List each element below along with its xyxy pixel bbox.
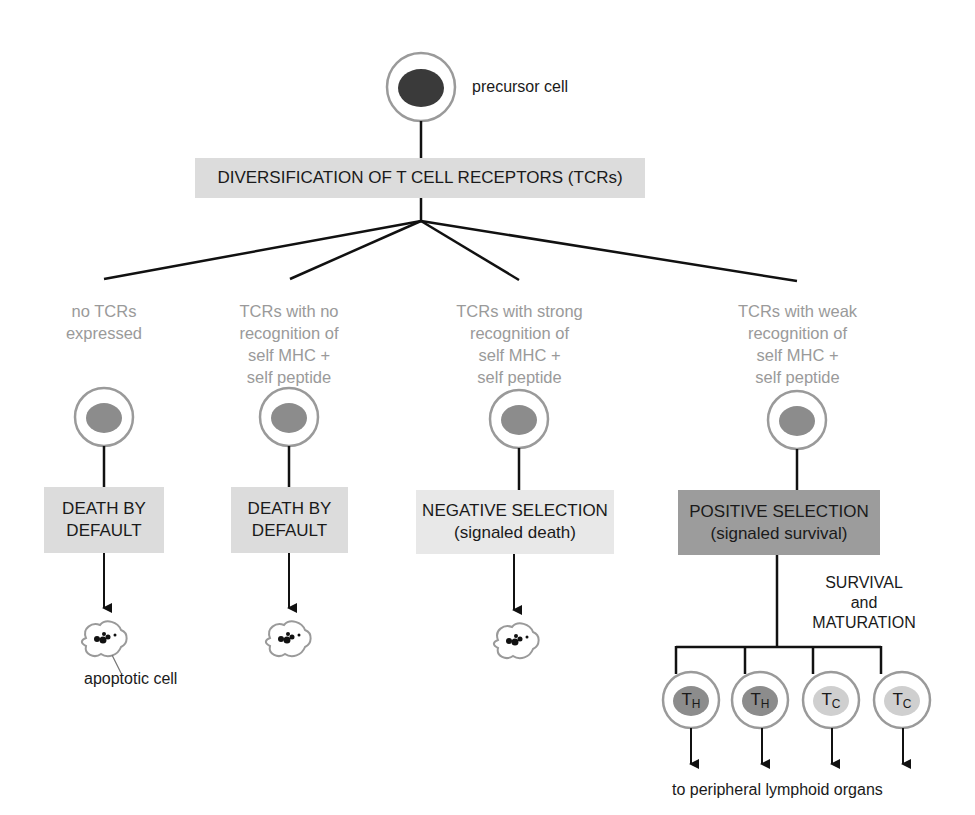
negative-selection-box: NEGATIVE SELECTION (signaled death) [416,490,614,554]
death-by-default-box: DEATH BY DEFAULT [231,487,348,553]
branch-condition-no-tcr: no TCRs expressed [44,300,164,344]
thymocyte-cell-icon [490,390,548,448]
destination-label: to peripheral lymphoid organs [672,781,883,799]
survival-maturation-label: SURVIVAL and MATURATION [780,573,948,633]
apoptotic-cell-icon [266,621,311,656]
cytotoxic-t-cell-label: TC [811,690,851,711]
positive-selection-box: POSITIVE SELECTION (signaled survival) [678,490,880,555]
branch-condition-weak-recognition: TCRs with weak recognition of self MHC +… [720,300,875,388]
thymocyte-cell-icon [768,391,826,449]
helper-t-cell-label: TH [671,690,711,711]
thymocyte-cell-icon [260,388,318,446]
death-by-default-box: DEATH BY DEFAULT [44,487,164,553]
helper-t-cell-label: TH [740,690,780,711]
apoptotic-cell-icon [82,621,127,656]
branch-condition-strong-recognition: TCRs with strong recognition of self MHC… [442,300,597,388]
branch-condition-no-recognition: TCRs with no recognition of self MHC + s… [219,300,359,388]
apoptotic-cell-icon [494,623,539,658]
precursor-cell-label: precursor cell [472,78,568,96]
precursor-cell-icon [387,53,455,121]
thymocyte-cell-icon [75,388,133,446]
diversification-box-label: DIVERSIFICATION OF T CELL RECEPTORS (TCR… [217,167,622,189]
cytotoxic-t-cell-label: TC [882,690,922,711]
apoptotic-cell-label: apoptotic cell [84,670,177,688]
diversification-box: DIVERSIFICATION OF T CELL RECEPTORS (TCR… [195,158,645,198]
